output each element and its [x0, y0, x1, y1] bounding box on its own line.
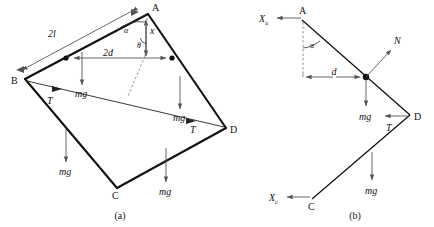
label-theta: θ — [137, 41, 141, 50]
bar-ab — [25, 14, 148, 79]
label-mg-right-lower: mg — [159, 186, 171, 197]
label-2l: 2l — [48, 28, 56, 39]
tension-arrowhead-b — [52, 86, 62, 92]
weights-a: mg mg mg mg — [59, 52, 185, 197]
vertex-label-c: C — [112, 190, 119, 201]
arrow-n — [366, 50, 391, 77]
vertex-label-a: A — [152, 2, 160, 13]
vertex-label-d-b: D — [414, 111, 421, 122]
label-tension-d: T — [190, 124, 197, 135]
label-mg-upper-b: mg — [359, 111, 371, 122]
label-x: x — [149, 25, 155, 36]
dim-2l-head-left — [16, 66, 24, 73]
bar-da — [148, 14, 226, 128]
vertex-label-d: D — [230, 124, 237, 135]
vertex-label-c-b: C — [308, 201, 315, 212]
dim-line-2l — [22, 11, 132, 70]
vertical-x-a: x θ — [128, 18, 155, 96]
bar-cd — [117, 128, 226, 188]
force-t-b: T — [385, 116, 408, 133]
joint-dot-left — [63, 55, 68, 60]
linkage-frame-b — [302, 20, 410, 199]
panel-b: d α Xa N mg T m — [258, 5, 421, 222]
label-mg-left-lower: mg — [59, 166, 71, 177]
label-n: N — [393, 35, 402, 46]
label-alpha: α — [124, 26, 129, 35]
dim-2l-head-right — [131, 9, 139, 16]
vertex-label-a-b: A — [299, 5, 307, 16]
label-mg-lower-b: mg — [365, 185, 377, 196]
tension-string-a — [27, 81, 224, 127]
force-xa-b: Xa — [258, 13, 301, 26]
dimension-d-b: d — [306, 66, 360, 77]
force-mg-lower-b: mg — [365, 152, 377, 196]
label-mg-right-upper: mg — [173, 112, 185, 123]
angle-alpha-b: α — [303, 41, 320, 50]
figure-canvas: 2l 2d x θ α mg — [0, 0, 434, 227]
bar-dc-b — [312, 115, 410, 199]
label-tension-b: T — [47, 95, 54, 106]
force-n-b: N — [366, 35, 402, 77]
label-alpha-b: α — [310, 41, 315, 50]
label-xa: Xa — [258, 13, 268, 26]
caption-a: (a) — [114, 210, 125, 222]
panel-a: 2l 2d x θ α mg — [11, 2, 237, 222]
label-2d: 2d — [103, 47, 114, 58]
label-d: d — [332, 66, 338, 77]
force-mg-upper-b: mg — [359, 80, 371, 122]
joint-dot-right — [169, 55, 174, 60]
dash-lower-a — [128, 56, 145, 96]
label-t-b: T — [386, 122, 393, 133]
linkage-frame-a — [25, 14, 226, 188]
physics-figure: 2l 2d x θ α mg — [0, 0, 434, 227]
caption-b: (b) — [349, 210, 361, 222]
vertex-label-b: B — [11, 75, 18, 86]
force-xc-b: Xc — [268, 192, 310, 205]
label-mg-left-upper: mg — [75, 88, 87, 99]
label-xc: Xc — [268, 192, 278, 205]
dimension-2l: 2l — [16, 9, 139, 73]
